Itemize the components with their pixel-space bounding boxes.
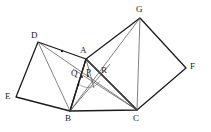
vertex-label-G: G [136, 5, 143, 14]
segment-d-b [38, 42, 70, 111]
vertex-label-F: F [190, 62, 195, 71]
square-agfc [86, 18, 186, 110]
vertex-label-A: A [80, 46, 87, 55]
vertex-label-R: R [101, 66, 107, 75]
segment-g-c [137, 18, 140, 110]
vertex-label-C: C [133, 114, 139, 123]
vertex-label-D: D [31, 31, 38, 40]
segment-c-a [86, 59, 137, 110]
vertex-label-E: E [5, 92, 11, 101]
angle-arc-at-p [79, 81, 100, 87]
vertex-label-B: B [65, 114, 71, 123]
segment-c-q [73, 69, 137, 110]
vertex-label-P: P [86, 68, 91, 77]
geometry-figure: A B C D E F G P Q R [0, 0, 211, 132]
midpoint-dot-ab [77, 84, 79, 86]
vertex-label-Q: Q [71, 69, 78, 78]
midpoint-dot-da [61, 50, 63, 52]
midpoint-dot-q [81, 76, 83, 78]
